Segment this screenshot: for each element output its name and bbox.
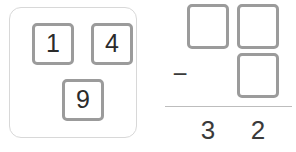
number-tile-4-label: 4 [105,31,119,56]
minuend-ones-slot[interactable] [237,4,279,49]
subtraction-problem: − 3 2 [160,0,296,152]
answer-ones-digit: 2 [237,114,279,146]
problem-divider-rule [165,106,292,107]
number-tile-1[interactable]: 1 [32,23,74,65]
minus-operator-icon: − [169,62,191,86]
number-tile-9[interactable]: 9 [62,79,104,121]
number-tile-tray: 1 4 9 [9,7,137,138]
subtrahend-ones-slot[interactable] [237,53,279,98]
number-tile-4[interactable]: 4 [91,23,133,65]
minuend-tens-slot[interactable] [187,4,229,49]
math-exercise-canvas: 1 4 9 − 3 2 [0,0,296,152]
answer-tens-digit: 3 [187,114,229,146]
number-tile-9-label: 9 [76,87,90,112]
number-tile-1-label: 1 [46,31,60,56]
